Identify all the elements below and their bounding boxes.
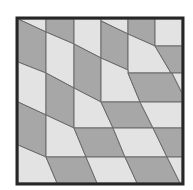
tiling-figure [0,0,193,190]
light-parallelogram-tile [155,19,182,46]
tiles-group [18,19,182,183]
parallelogram-tiling-diagram [0,0,193,190]
